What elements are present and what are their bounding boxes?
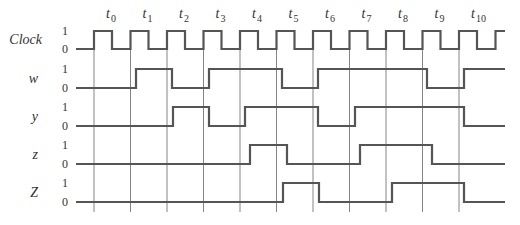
waveform-Clock [76, 31, 505, 49]
waveform-Z [76, 183, 505, 202]
time-label-t7: t7 [362, 6, 372, 24]
level-high-z: 1 [62, 138, 68, 152]
signal-label-z: z [32, 147, 39, 162]
timing-diagram: t0t1t2t3t4t5t6t7t8t9t10 Clock10w10y10z10… [0, 0, 520, 225]
waveform-z [76, 145, 505, 164]
level-high-y: 1 [62, 100, 68, 114]
time-label-t9: t9 [435, 6, 445, 24]
time-label-t2: t2 [179, 6, 189, 24]
level-low-w: 0 [62, 81, 68, 95]
time-label-t5: t5 [289, 6, 299, 24]
signal-label-Clock: Clock [9, 32, 42, 47]
time-label-t8: t8 [398, 6, 408, 24]
level-high-Z: 1 [62, 176, 68, 190]
time-label-t1: t1 [143, 6, 153, 24]
time-gridlines [94, 50, 459, 212]
waveform-y [76, 107, 505, 126]
time-label-t6: t6 [325, 6, 335, 24]
time-label-t10: t10 [471, 6, 486, 24]
time-label-t3: t3 [216, 6, 226, 24]
waveform-w [76, 69, 505, 88]
level-low-y: 0 [62, 119, 68, 133]
signal-label-y: y [30, 109, 39, 124]
time-labels: t0t1t2t3t4t5t6t7t8t9t10 [106, 6, 486, 24]
level-low-Clock: 0 [62, 42, 68, 56]
time-label-t0: t0 [106, 6, 116, 24]
level-low-Z: 0 [62, 195, 68, 209]
level-high-Clock: 1 [62, 24, 68, 38]
signal-label-w: w [29, 71, 39, 86]
level-high-w: 1 [62, 62, 68, 76]
waveforms [76, 31, 505, 202]
signal-label-Z: Z [30, 185, 38, 200]
time-label-t4: t4 [252, 6, 262, 24]
level-low-z: 0 [62, 157, 68, 171]
signal-labels: Clock10w10y10z10Z10 [9, 24, 68, 209]
